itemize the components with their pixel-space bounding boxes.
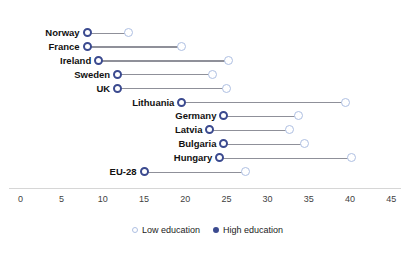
dumbbell-row: UK (0, 82, 415, 96)
high-education-marker[interactable] (219, 139, 228, 148)
low-education-marker[interactable] (177, 42, 186, 51)
dumbbell-row: Ireland (0, 54, 415, 68)
dumbbell-row: Hungary (0, 151, 415, 165)
dumbbell-row: Bulgaria (0, 137, 415, 151)
low-education-marker[interactable] (294, 111, 303, 120)
category-label: Ireland (60, 54, 91, 68)
low-education-marker[interactable] (208, 70, 217, 79)
category-label: Sweden (74, 68, 110, 82)
x-axis-line (9, 188, 401, 189)
category-label: Germany (175, 109, 216, 123)
high-education-marker[interactable] (215, 153, 224, 162)
category-label: Hungary (174, 151, 213, 165)
x-axis-tick-label: 35 (304, 194, 314, 204)
low-education-marker[interactable] (347, 153, 356, 162)
dumbbell-row: France (0, 40, 415, 54)
low-education-marker[interactable] (222, 84, 231, 93)
category-label: France (49, 40, 80, 54)
connector-line (224, 116, 298, 117)
high-education-marker[interactable] (83, 28, 92, 37)
connector-line (87, 33, 128, 34)
x-axis-tick-label: 10 (98, 194, 108, 204)
category-label: Latvia (175, 123, 202, 137)
category-label: Lithuania (132, 96, 174, 110)
high-education-marker[interactable] (113, 84, 122, 93)
dumbbell-row: Lithuania (0, 96, 415, 110)
x-axis-tick-label: 40 (345, 194, 355, 204)
x-axis-tick-label: 15 (139, 194, 149, 204)
x-axis-tick-label: 5 (59, 194, 64, 204)
x-axis: 051015202530354045 (0, 188, 415, 216)
connector-line (87, 46, 181, 47)
category-label: Norway (45, 26, 79, 40)
category-label: EU-28 (110, 165, 137, 179)
connector-line (210, 130, 290, 131)
legend-label: High education (223, 225, 283, 235)
legend-item[interactable]: Low education (132, 225, 200, 235)
category-label: UK (96, 82, 110, 96)
connector-line (224, 144, 305, 145)
dumbbell-chart: NorwayFranceIrelandSwedenUKLithuaniaGerm… (0, 0, 415, 255)
low-education-marker[interactable] (285, 125, 294, 134)
x-axis-tick-label: 30 (263, 194, 273, 204)
connector-line (220, 158, 352, 159)
low-education-marker[interactable] (241, 167, 250, 176)
x-axis-tick-label: 25 (221, 194, 231, 204)
high-education-marker[interactable] (177, 98, 186, 107)
legend-circle-icon (213, 227, 219, 233)
dumbbell-row: Germany (0, 109, 415, 123)
category-label: Bulgaria (178, 137, 216, 151)
x-axis-tick-label: 0 (18, 194, 23, 204)
high-education-marker[interactable] (94, 56, 103, 65)
low-education-marker[interactable] (341, 98, 350, 107)
legend-item[interactable]: High education (213, 225, 283, 235)
high-education-marker[interactable] (113, 70, 122, 79)
dumbbell-row: EU-28 (0, 165, 415, 179)
connector-line (118, 74, 213, 75)
high-education-marker[interactable] (83, 42, 92, 51)
low-education-marker[interactable] (124, 28, 133, 37)
legend-circle-icon (132, 227, 138, 233)
dumbbell-row: Sweden (0, 68, 415, 82)
chart-legend: Low educationHigh education (0, 221, 415, 239)
high-education-marker[interactable] (219, 111, 228, 120)
low-education-marker[interactable] (224, 56, 233, 65)
connector-line (118, 88, 227, 89)
connector-line (182, 102, 345, 103)
low-education-marker[interactable] (300, 139, 309, 148)
connector-line (99, 60, 228, 61)
connector-line (144, 172, 245, 173)
high-education-marker[interactable] (205, 125, 214, 134)
high-education-marker[interactable] (140, 167, 149, 176)
dumbbell-row: Norway (0, 26, 415, 40)
dumbbell-row: Latvia (0, 123, 415, 137)
legend-label: Low education (142, 225, 200, 235)
x-axis-tick-label: 45 (386, 194, 396, 204)
plot-area: NorwayFranceIrelandSwedenUKLithuaniaGerm… (0, 0, 415, 190)
x-axis-tick-label: 20 (180, 194, 190, 204)
